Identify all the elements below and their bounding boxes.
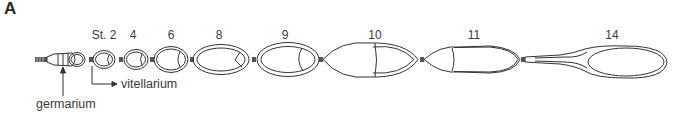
egg-chamber-stage-10 <box>323 43 418 78</box>
terminal-filament <box>35 57 47 62</box>
egg-chamber-stage-11 <box>424 46 520 73</box>
ovariole-drawing <box>0 0 695 117</box>
egg-chamber-stage-4 <box>124 50 148 70</box>
germarium-shape <box>47 53 85 67</box>
egg-chamber-stage-14 <box>525 46 667 78</box>
egg-chamber-stage-9 <box>257 43 319 77</box>
egg-chamber-stage-6 <box>154 47 188 73</box>
ovariole-diagram: A St. 2 4 6 8 9 10 11 14 <box>0 0 695 117</box>
vitellarium-label: vitellarium <box>121 77 177 91</box>
egg-chamber-stage-2 <box>93 51 115 69</box>
germarium-label: germarium <box>36 97 96 111</box>
vitellarium-arrow <box>92 66 117 87</box>
egg-chamber-stage-8 <box>193 45 249 75</box>
germarium-arrow <box>61 67 66 96</box>
